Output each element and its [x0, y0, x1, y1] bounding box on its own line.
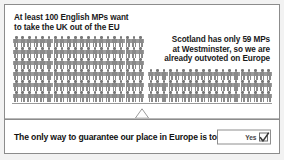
vote-message: The only way to guarantee our place in E…: [14, 132, 236, 142]
pictogram-row: [148, 91, 272, 102]
person-figure-icon: [265, 91, 272, 102]
caption-english-mps: At least 100 English MPs want to take th…: [14, 13, 129, 32]
vote-bar: The only way to guarantee our place in E…: [5, 119, 279, 153]
pictogram-row: [148, 69, 272, 80]
pictogram-row: [13, 91, 144, 102]
person-figure-icon: [137, 36, 144, 47]
pictogram-row: [13, 80, 144, 91]
pictogram-row: [13, 47, 144, 58]
leaflet-card: At least 100 English MPs want to take th…: [4, 4, 280, 154]
person-figure-icon: [137, 69, 144, 80]
pictogram-group-english-mps: [13, 36, 144, 102]
check-mark-icon: [259, 132, 270, 144]
person-figure-icon: [137, 91, 144, 102]
ballot-paper[interactable]: Yes: [217, 129, 271, 144]
person-figure-icon: [265, 80, 272, 91]
person-figure-icon: [137, 58, 144, 69]
pictogram-group-scottish-mps: [148, 69, 272, 102]
person-figure-icon: [265, 69, 272, 80]
illustration-panel: At least 100 English MPs want to take th…: [5, 5, 279, 119]
ballot-checkbox[interactable]: [259, 132, 268, 141]
pictogram-row: [148, 80, 272, 91]
ballot-yes-label: Yes: [245, 133, 256, 140]
pictogram-row: [13, 36, 144, 47]
triangle-fulcrum-icon: [135, 105, 150, 116]
pictogram-row: [13, 69, 144, 80]
person-figure-icon: [137, 80, 144, 91]
caption-scottish-mps: Scotland has only 59 MPs at Westminster,…: [164, 35, 270, 64]
pictogram-row: [13, 58, 144, 69]
person-figure-icon: [137, 47, 144, 58]
